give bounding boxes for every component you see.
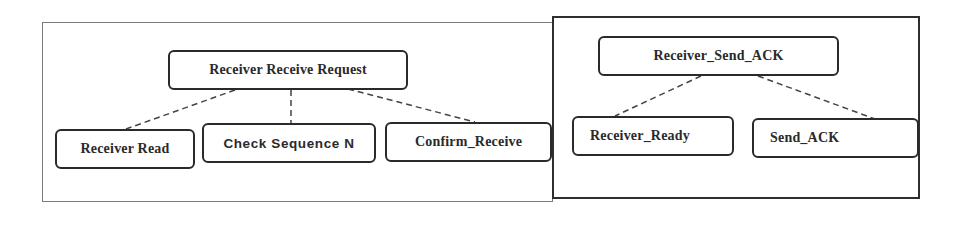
node-send-ack: Send_ACK: [752, 118, 919, 158]
node-label: Check Sequence N: [223, 136, 354, 151]
node-receiver-receive-request: Receiver Receive Request: [168, 50, 408, 90]
node-label: Receiver_Ready: [590, 128, 690, 144]
node-label: Receiver Read: [80, 141, 169, 157]
node-receiver-read: Receiver Read: [55, 129, 195, 169]
node-label: Confirm_Receive: [415, 134, 522, 150]
node-receiver-ready: Receiver_Ready: [572, 116, 734, 156]
node-receiver-send-ack: Receiver_Send_ACK: [598, 36, 839, 76]
node-check-sequence-n: Check Sequence N: [202, 123, 376, 163]
left-panel-receive-request: [42, 22, 553, 202]
node-label: Receiver Receive Request: [209, 62, 367, 78]
node-label: Receiver_Send_ACK: [653, 48, 783, 64]
node-label: Send_ACK: [770, 130, 839, 146]
node-confirm-receive: Confirm_Receive: [385, 122, 552, 162]
